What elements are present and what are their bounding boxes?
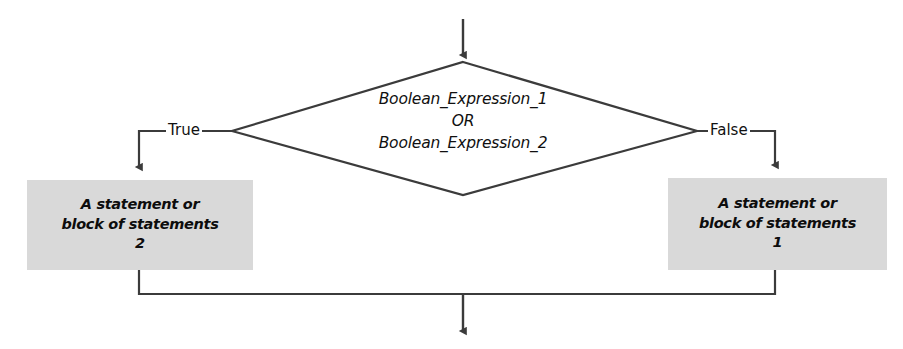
decision-label: Boolean_Expression_1 OR Boolean_Expressi…: [300, 88, 626, 154]
flowchart-connectors: [0, 0, 903, 349]
process-label-statement-block-1: A statement or block of statements 1: [668, 194, 887, 253]
branch-label-false: False: [708, 123, 750, 138]
process-box-statement-block-2: A statement or block of statements 2: [27, 180, 253, 270]
process-box-statement-block-1: A statement or block of statements 1: [668, 178, 887, 270]
process-label-statement-block-2: A statement or block of statements 2: [27, 195, 253, 254]
flowchart-canvas: Boolean_Expression_1 OR Boolean_Expressi…: [0, 0, 903, 349]
branch-label-true: True: [166, 123, 202, 138]
merge-connector: [139, 270, 775, 294]
